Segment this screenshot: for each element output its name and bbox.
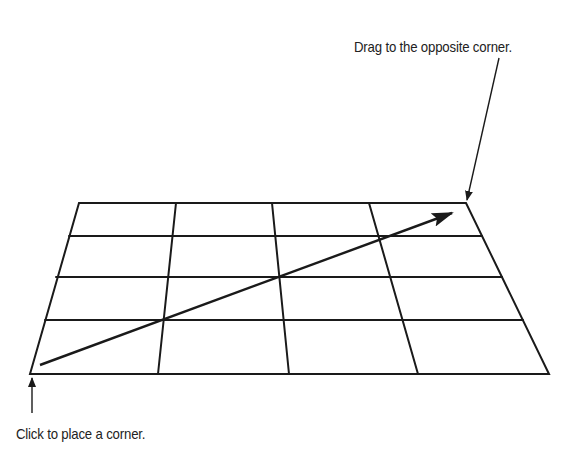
grid-col-line-1	[158, 203, 176, 374]
drag-annotation-label: Drag to the opposite corner.	[354, 38, 512, 55]
grid-col-line-2	[272, 203, 289, 374]
grid-outline	[30, 203, 549, 374]
drag-callout-pointer	[467, 58, 499, 200]
perspective-grid	[30, 203, 549, 374]
click-annotation-label: Click to place a corner.	[16, 425, 145, 442]
grid-diagram	[0, 0, 586, 466]
